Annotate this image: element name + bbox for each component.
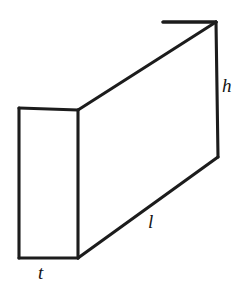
dimension-label-height: h xyxy=(222,76,232,95)
box-svg xyxy=(0,0,242,286)
dimension-label-thickness: t xyxy=(38,263,43,282)
edge-front-top xyxy=(19,108,78,110)
dimension-label-length: l xyxy=(148,212,153,231)
box-diagram-figure: h l t xyxy=(0,0,242,286)
box-front-face xyxy=(19,108,78,258)
edge-right-vertical-height xyxy=(216,22,218,157)
